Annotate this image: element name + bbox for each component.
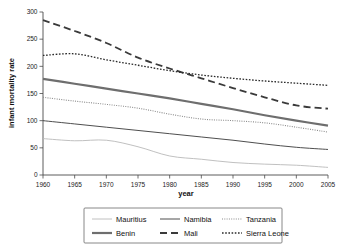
legend-label-tanzania[interactable]: Tanzania — [246, 215, 277, 224]
x-tick-label: 1960 — [36, 181, 51, 188]
y-tick-label: 100 — [27, 117, 38, 124]
y-axis-ticks — [40, 12, 44, 175]
legend-label-namibia[interactable]: Namibia — [184, 215, 212, 224]
x-tick-label: 1985 — [194, 181, 209, 188]
y-tick-label: 150 — [27, 90, 38, 97]
legend-label-mali[interactable]: Mali — [184, 229, 198, 238]
x-tick-label: 1995 — [257, 181, 272, 188]
infant-mortality-line-chart: 050100150200250300 196019651970197519801… — [0, 0, 340, 251]
y-axis-tick-labels: 050100150200250300 — [27, 8, 38, 178]
y-tick-label: 200 — [27, 63, 38, 70]
series-line-mauritius — [43, 139, 328, 168]
data-series-layer — [43, 20, 328, 167]
legend: MauritiusNamibiaTanzaniaBeninMaliSierra … — [84, 208, 289, 243]
y-tick-label: 0 — [34, 171, 38, 178]
x-tick-label: 2000 — [289, 181, 304, 188]
x-tick-label: 1970 — [99, 181, 114, 188]
x-axis-ticks — [43, 175, 328, 179]
x-tick-label: 1990 — [226, 181, 241, 188]
legend-label-mauritius[interactable]: Mauritius — [116, 215, 147, 224]
x-tick-label: 1975 — [131, 181, 146, 188]
series-line-mali — [43, 20, 328, 109]
plot-area: 050100150200250300 196019651970197519801… — [27, 8, 336, 188]
legend-label-benin[interactable]: Benin — [116, 229, 135, 238]
y-tick-label: 50 — [30, 144, 38, 151]
x-axis-title: year — [178, 189, 194, 198]
x-tick-label: 1980 — [162, 181, 177, 188]
y-axis-title: infant mortality rate — [7, 58, 16, 128]
axis-spines — [43, 12, 328, 175]
x-tick-label: 1965 — [67, 181, 82, 188]
y-tick-label: 250 — [27, 35, 38, 42]
x-axis-tick-labels: 1960196519701975198019851990199520002005 — [36, 181, 336, 188]
y-tick-label: 300 — [27, 8, 38, 15]
x-tick-label: 2005 — [321, 181, 336, 188]
series-line-sierra-leone — [43, 54, 328, 86]
legend-items: MauritiusNamibiaTanzaniaBeninMaliSierra … — [92, 215, 289, 238]
figure-container: 050100150200250300 196019651970197519801… — [0, 0, 340, 251]
legend-label-sierra-leone[interactable]: Sierra Leone — [246, 229, 289, 238]
